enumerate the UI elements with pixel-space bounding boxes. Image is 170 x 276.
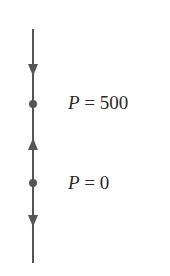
- equilibrium-value: 500: [100, 92, 129, 113]
- arrow-down-icon: [28, 64, 38, 76]
- equilibrium-label-500: P = 500: [68, 92, 128, 114]
- equals-sign: =: [84, 172, 95, 193]
- phase-line-diagram: [0, 0, 170, 276]
- equilibrium-value: 0: [100, 172, 110, 193]
- arrow-up-icon: [28, 138, 38, 150]
- equilibrium-point-500: [29, 100, 37, 108]
- equals-sign: =: [84, 92, 95, 113]
- arrow-down-icon: [28, 215, 38, 227]
- equilibrium-label-0: P = 0: [68, 172, 109, 194]
- variable-name: P: [68, 92, 80, 113]
- variable-name: P: [68, 172, 80, 193]
- equilibrium-point-0: [29, 179, 37, 187]
